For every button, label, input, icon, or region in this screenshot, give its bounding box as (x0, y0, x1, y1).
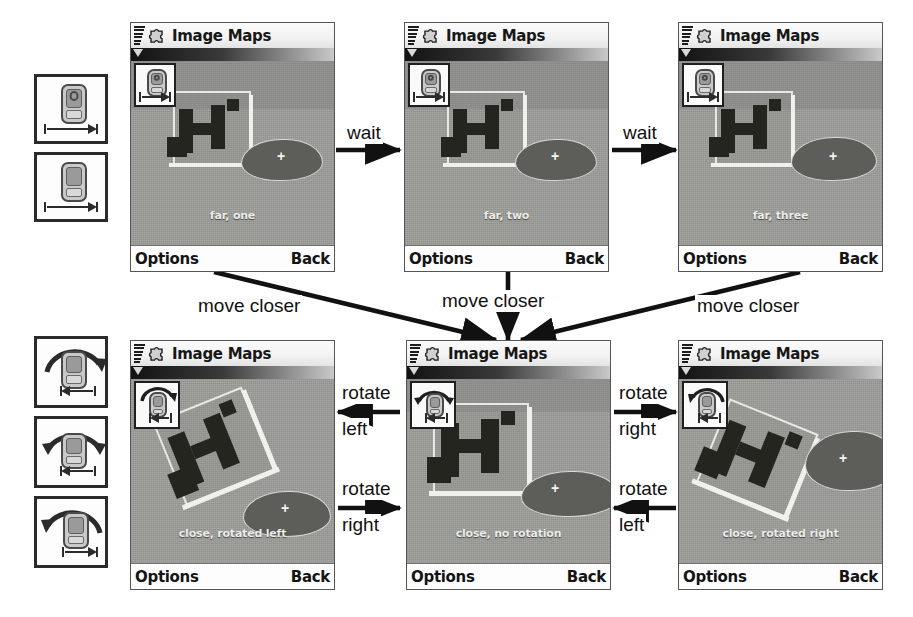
puzzle-piece-icon (147, 343, 169, 364)
map-view[interactable]: + close, rotated right (679, 379, 882, 565)
status-subbar (407, 366, 610, 379)
badge-rotate-icon (410, 381, 456, 429)
softkey-bar: Options Back (407, 563, 610, 589)
titlebar: Image Maps (131, 341, 334, 366)
signal-bars-icon (682, 26, 693, 45)
screen-close-rotated-right[interactable]: Image Maps + (678, 340, 883, 590)
softkey-options[interactable]: Options (135, 568, 199, 586)
softkey-bar: Options Back (679, 245, 882, 271)
softkey-back[interactable]: Back (291, 568, 330, 586)
legend-distance-near-icon (34, 152, 108, 222)
puzzle-piece-icon (421, 25, 443, 46)
app-title: Image Maps (446, 27, 545, 45)
titlebar: Image Maps (407, 341, 610, 366)
softkey-options[interactable]: Options (135, 250, 199, 268)
softkey-options[interactable]: Options (411, 568, 475, 586)
screen-caption: far, three (679, 209, 882, 222)
softkey-bar: Options Back (679, 563, 882, 589)
edge-label-move-closer-2: move closer (440, 290, 546, 312)
titlebar: Image Maps (131, 23, 334, 48)
screen-close-rotated-left[interactable]: Image Maps + (130, 340, 335, 590)
badge-rotate-icon (134, 381, 180, 429)
puzzle-piece-icon (423, 343, 445, 364)
screen-far-one[interactable]: Image Maps + (130, 22, 335, 272)
map-view[interactable]: + far, two (405, 61, 608, 247)
softkey-options[interactable]: Options (683, 250, 747, 268)
map-crosshair-icon: + (829, 149, 837, 163)
legend-distance-far-icon (34, 74, 108, 144)
softkey-back[interactable]: Back (839, 568, 878, 586)
badge-distance-icon (682, 63, 724, 107)
app-title: Image Maps (172, 27, 271, 45)
edge-label-rotate-left-1-line2: left (340, 418, 369, 440)
titlebar: Image Maps (679, 23, 882, 48)
app-title: Image Maps (448, 345, 547, 363)
screen-caption: far, one (131, 209, 334, 222)
screen-caption: close, rotated left (131, 527, 334, 540)
screen-caption: close, no rotation (407, 527, 610, 540)
titlebar: Image Maps (679, 341, 882, 366)
softkey-options[interactable]: Options (683, 568, 747, 586)
signal-bars-icon (408, 26, 419, 45)
edge-label-rotate-right-1-line2: right (340, 514, 381, 536)
screen-far-three[interactable]: Image Maps + (678, 22, 883, 272)
legend-rotate-right-icon (34, 496, 108, 568)
softkey-back[interactable]: Back (839, 250, 878, 268)
status-subbar (405, 48, 608, 61)
status-subbar (679, 366, 882, 379)
softkey-back[interactable]: Back (565, 250, 604, 268)
status-subbar (679, 48, 882, 61)
titlebar: Image Maps (405, 23, 608, 48)
edge-label-wait-2: wait (621, 122, 659, 144)
app-title: Image Maps (172, 345, 271, 363)
screen-close-no-rotation[interactable]: Image Maps + (406, 340, 611, 590)
legend-rotate-none-icon (34, 416, 108, 488)
edge-label-rotate-right-2-line1: rotate (617, 382, 670, 404)
puzzle-piece-icon (147, 25, 169, 46)
softkey-back[interactable]: Back (291, 250, 330, 268)
badge-distance-icon (134, 63, 176, 107)
edge-label-rotate-left-2-line2: left (617, 514, 646, 536)
edge-label-rotate-left-1-line1: rotate (340, 382, 393, 404)
signal-bars-icon (134, 344, 145, 363)
softkey-bar: Options Back (131, 245, 334, 271)
badge-distance-icon (408, 63, 450, 107)
map-crosshair-icon: + (277, 149, 285, 163)
edge-label-rotate-right-2-line2: right (617, 418, 658, 440)
edge-label-wait-1: wait (345, 122, 383, 144)
screen-caption: close, rotated right (679, 527, 882, 540)
edge-label-move-closer-3: move closer (695, 295, 801, 317)
map-view[interactable]: + far, three (679, 61, 882, 247)
puzzle-piece-icon (695, 25, 717, 46)
softkey-bar: Options Back (131, 563, 334, 589)
app-title: Image Maps (720, 345, 819, 363)
app-title: Image Maps (720, 27, 819, 45)
softkey-options[interactable]: Options (409, 250, 473, 268)
puzzle-piece-icon (695, 343, 717, 364)
map-crosshair-icon: + (839, 451, 847, 465)
edge-label-move-closer-1: move closer (196, 295, 302, 317)
map-crosshair-icon: + (551, 481, 559, 495)
softkey-back[interactable]: Back (567, 568, 606, 586)
signal-bars-icon (134, 26, 145, 45)
map-view[interactable]: + far, one (131, 61, 334, 247)
pond-shape (521, 471, 610, 517)
softkey-bar: Options Back (405, 245, 608, 271)
diagram-canvas: Image Maps + (0, 0, 913, 617)
screen-caption: far, two (405, 209, 608, 222)
map-view[interactable]: + close, rotated left (131, 379, 334, 565)
badge-rotate-icon (682, 381, 728, 429)
map-crosshair-icon: + (551, 149, 559, 163)
signal-bars-icon (410, 344, 421, 363)
status-subbar (131, 366, 334, 379)
map-crosshair-icon: + (281, 501, 289, 515)
edge-label-rotate-left-2-line1: rotate (617, 478, 670, 500)
edge-label-rotate-right-1-line1: rotate (340, 478, 393, 500)
legend-rotate-left-icon (34, 336, 108, 408)
status-subbar (131, 48, 334, 61)
screen-far-two[interactable]: Image Maps + (404, 22, 609, 272)
signal-bars-icon (682, 344, 693, 363)
map-view[interactable]: + close, no rotation (407, 379, 610, 565)
